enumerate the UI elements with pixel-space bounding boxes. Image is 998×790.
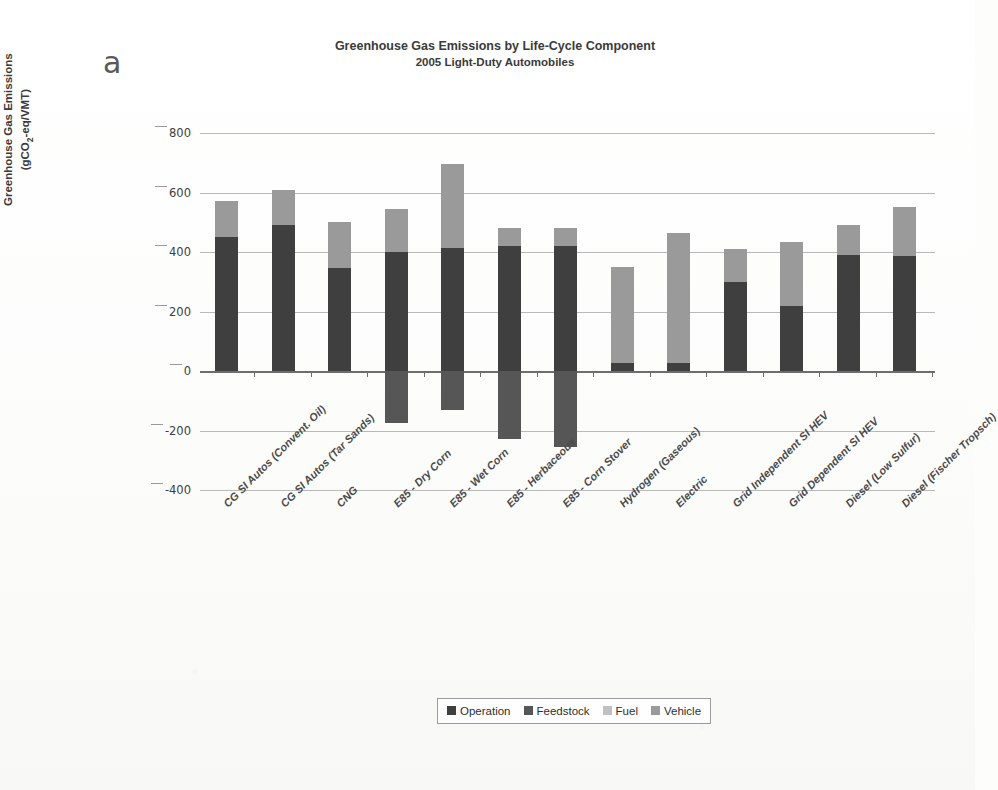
bar-4[interactable] bbox=[385, 133, 408, 490]
bar-8[interactable] bbox=[611, 133, 634, 490]
y-axis-title-line2: (gCO2-eq/VMT) bbox=[17, 0, 36, 280]
x-tick-mark-7 bbox=[593, 371, 594, 377]
x-axis-labels: CG SI Autos (Convent. Oil)CG SI Autos (T… bbox=[200, 495, 960, 685]
y-tick-dash bbox=[155, 126, 167, 127]
bar-segment-operation bbox=[272, 225, 295, 371]
panel-label: a bbox=[103, 45, 121, 80]
x-tick-mark-13 bbox=[932, 371, 933, 377]
bar-segment-feedstock-negative bbox=[385, 371, 408, 423]
bar-segment-operation bbox=[328, 268, 351, 371]
bar-segment-upper bbox=[724, 249, 747, 282]
x-tick-mark-3 bbox=[367, 371, 368, 377]
x-tick-mark-11 bbox=[819, 371, 820, 377]
y-tick-dash bbox=[155, 305, 167, 306]
x-tick-mark-9 bbox=[706, 371, 707, 377]
y-tick-dash bbox=[170, 364, 182, 365]
bar-segment-upper bbox=[498, 228, 521, 246]
y-tick-dash bbox=[155, 186, 167, 187]
x-tick-mark-4 bbox=[424, 371, 425, 377]
legend-label: Vehicle bbox=[664, 705, 701, 717]
x-tick-mark-10 bbox=[763, 371, 764, 377]
bar-segment-upper bbox=[780, 242, 803, 306]
bar-segment-operation bbox=[667, 363, 690, 371]
bar-segment-upper bbox=[441, 164, 464, 248]
bar-7[interactable] bbox=[554, 133, 577, 490]
chart-title-line1: Greenhouse Gas Emissions by Life-Cycle C… bbox=[215, 38, 775, 55]
bar-segment-feedstock-negative bbox=[498, 371, 521, 439]
bar-segment-operation bbox=[724, 282, 747, 371]
bar-1[interactable] bbox=[215, 133, 238, 490]
bar-segment-operation bbox=[554, 246, 577, 371]
legend-swatch-icon bbox=[447, 706, 456, 715]
bar-segment-upper bbox=[215, 201, 238, 237]
y-axis-title: Greenhouse Gas Emissions (gCO2-eq/VMT) bbox=[0, 0, 35, 280]
legend-label: Fuel bbox=[616, 705, 638, 717]
y-tick-dash bbox=[151, 424, 163, 425]
legend-swatch-icon bbox=[603, 706, 612, 715]
legend-item-fuel[interactable]: Fuel bbox=[603, 705, 638, 717]
x-tick-mark-5 bbox=[480, 371, 481, 377]
y-tick-label-800: 800 bbox=[169, 126, 191, 140]
bar-segment-upper bbox=[611, 267, 634, 363]
chart-title: Greenhouse Gas Emissions by Life-Cycle C… bbox=[215, 38, 775, 70]
bar-segment-upper bbox=[328, 222, 351, 268]
y-tick-dash bbox=[155, 245, 167, 246]
bar-segment-upper bbox=[385, 209, 408, 252]
legend-swatch-icon bbox=[651, 706, 660, 715]
bar-10[interactable] bbox=[724, 133, 747, 490]
bar-segment-operation bbox=[215, 237, 238, 371]
x-tick-mark-6 bbox=[537, 371, 538, 377]
bar-segment-operation bbox=[837, 255, 860, 371]
x-tick-mark-1 bbox=[254, 371, 255, 377]
y-tick-label-200: 200 bbox=[169, 305, 191, 319]
bar-segment-operation bbox=[441, 248, 464, 371]
y-axis-title-line1: Greenhouse Gas Emissions bbox=[2, 53, 14, 206]
bar-segment-upper bbox=[667, 233, 690, 363]
bar-segment-upper bbox=[272, 190, 295, 226]
y-tick-dash bbox=[151, 483, 163, 484]
x-tick-mark-8 bbox=[650, 371, 651, 377]
legend-item-feedstock[interactable]: Feedstock bbox=[524, 705, 590, 717]
y-tick-label--400: -400 bbox=[165, 483, 191, 497]
bar-segment-upper bbox=[837, 225, 860, 255]
legend-swatch-icon bbox=[524, 706, 533, 715]
bar-segment-feedstock-negative bbox=[554, 371, 577, 447]
legend-label: Feedstock bbox=[537, 705, 590, 717]
legend-item-operation[interactable]: Operation bbox=[447, 705, 511, 717]
y-tick-label--200: -200 bbox=[165, 424, 191, 438]
x-tick-mark-12 bbox=[876, 371, 877, 377]
bar-segment-operation bbox=[611, 363, 634, 371]
legend-label: Operation bbox=[460, 705, 511, 717]
bar-segment-operation bbox=[893, 256, 916, 371]
y-tick-label-600: 600 bbox=[169, 186, 191, 200]
x-tick-mark-2 bbox=[311, 371, 312, 377]
legend-item-vehicle[interactable]: Vehicle bbox=[651, 705, 701, 717]
bar-segment-upper bbox=[554, 228, 577, 246]
bar-segment-upper bbox=[893, 207, 916, 256]
y-tick-label-400: 400 bbox=[169, 245, 191, 259]
gridline--400 bbox=[200, 490, 935, 491]
bar-segment-operation bbox=[498, 246, 521, 371]
chart-legend: OperationFeedstockFuelVehicle bbox=[437, 698, 711, 724]
bar-segment-operation bbox=[780, 306, 803, 371]
chart-title-line2: 2005 Light-Duty Automobiles bbox=[215, 55, 775, 71]
bar-6[interactable] bbox=[498, 133, 521, 490]
bar-5[interactable] bbox=[441, 133, 464, 490]
y-tick-label-0: 0 bbox=[184, 364, 191, 378]
bar-segment-feedstock-negative bbox=[441, 371, 464, 410]
bar-segment-operation bbox=[385, 252, 408, 371]
